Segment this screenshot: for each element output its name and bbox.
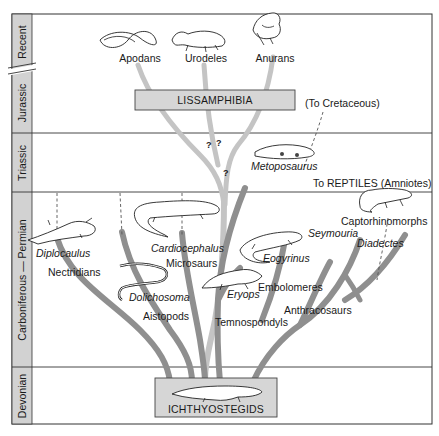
- label-diplocaulus: Diplocaulus: [36, 247, 91, 259]
- ichthyostegids-box: ICHTHYOSTEGIDS: [155, 378, 277, 417]
- label-eryops: Eryops: [227, 288, 260, 300]
- uncertain-mark-1: ?: [206, 140, 212, 150]
- period-column: [12, 14, 32, 424]
- label-microsaurs: Microsaurs: [166, 257, 217, 269]
- period-label-triassic: Triassic: [16, 145, 28, 181]
- label-captorhinomorphs: Captorhinomorphs: [341, 215, 427, 227]
- label-temnospondyls: Temnospondyls: [215, 316, 288, 328]
- label-nectridians: Nectridians: [48, 266, 101, 278]
- period-label-devonian: Devonian: [16, 374, 28, 419]
- label-seymouria: Seymouria: [308, 227, 358, 239]
- label-diadectes: Diadectes: [357, 237, 404, 249]
- phylogeny-diagram: Recent Jurassic Triassic Carboniferous —…: [0, 0, 439, 436]
- period-label-jurassic: Jurassic: [16, 84, 28, 123]
- label-eogyrinus: Eogyrinus: [263, 252, 310, 264]
- label-anthracosaurs: Anthracosaurs: [284, 304, 352, 316]
- uncertain-mark-2: ?: [216, 138, 222, 148]
- period-label-recent: Recent: [16, 25, 28, 58]
- label-dolichosoma: Dolichosoma: [129, 291, 190, 303]
- label-embolomeres: Embolomeres: [258, 281, 323, 293]
- lissamphibia-label: LISSAMPHIBIA: [177, 94, 252, 106]
- label-metoposaurus: Metoposaurus: [251, 160, 318, 172]
- uncertain-mark-3: ?: [223, 168, 229, 178]
- label-apodans: Apodans: [119, 52, 160, 64]
- label-to-reptiles: To REPTILES (Amniotes): [313, 177, 431, 189]
- label-urodeles: Urodeles: [185, 52, 227, 64]
- label-cardiocephalus: Cardiocephalus: [151, 242, 225, 254]
- label-aistopods: Aistopods: [143, 310, 189, 322]
- label-to-cretaceous: (To Cretaceous): [305, 97, 380, 109]
- lissamphibia-box: LISSAMPHIBIA: [135, 90, 295, 110]
- ichthyostegids-label: ICHTHYOSTEGIDS: [168, 403, 264, 415]
- period-label-carboniferous-permian: Carboniferous — Permian: [16, 219, 28, 341]
- label-anurans: Anurans: [255, 52, 294, 64]
